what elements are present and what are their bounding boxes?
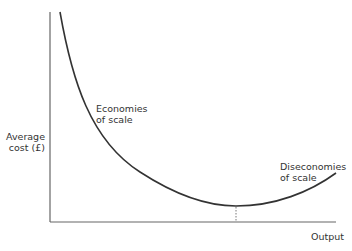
x-axis-label: Output xyxy=(311,231,344,242)
economies-label-line2: of scale xyxy=(96,114,148,125)
economies-of-scale-label: Economies of scale xyxy=(96,103,148,125)
diseconomies-label-line1: Diseconomies xyxy=(280,161,346,172)
economies-label-line1: Economies xyxy=(96,103,148,114)
y-axis-label-line2: cost (£) xyxy=(0,142,45,153)
diseconomies-of-scale-label: Diseconomies of scale xyxy=(280,161,346,183)
y-axis-label-line1: Average xyxy=(0,131,45,142)
chart-canvas xyxy=(0,0,352,251)
y-axis-label: Average cost (£) xyxy=(0,131,45,153)
diseconomies-label-line2: of scale xyxy=(280,172,346,183)
